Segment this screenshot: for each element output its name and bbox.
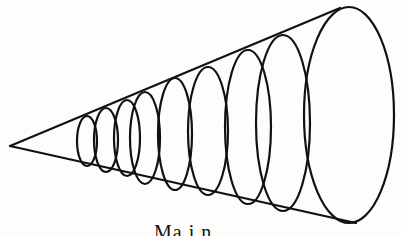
cone-ellipse-4	[130, 92, 160, 184]
cone-ellipse-6	[188, 67, 228, 195]
caption-text: Ma i n	[154, 221, 212, 236]
cone-ellipse-9	[304, 7, 394, 223]
cone-ellipse-8	[256, 35, 310, 211]
cone-ellipse-7	[225, 50, 271, 204]
cone-diagram	[0, 0, 401, 236]
cone-ellipse-5	[158, 78, 192, 190]
cone-ellipses	[77, 7, 394, 223]
